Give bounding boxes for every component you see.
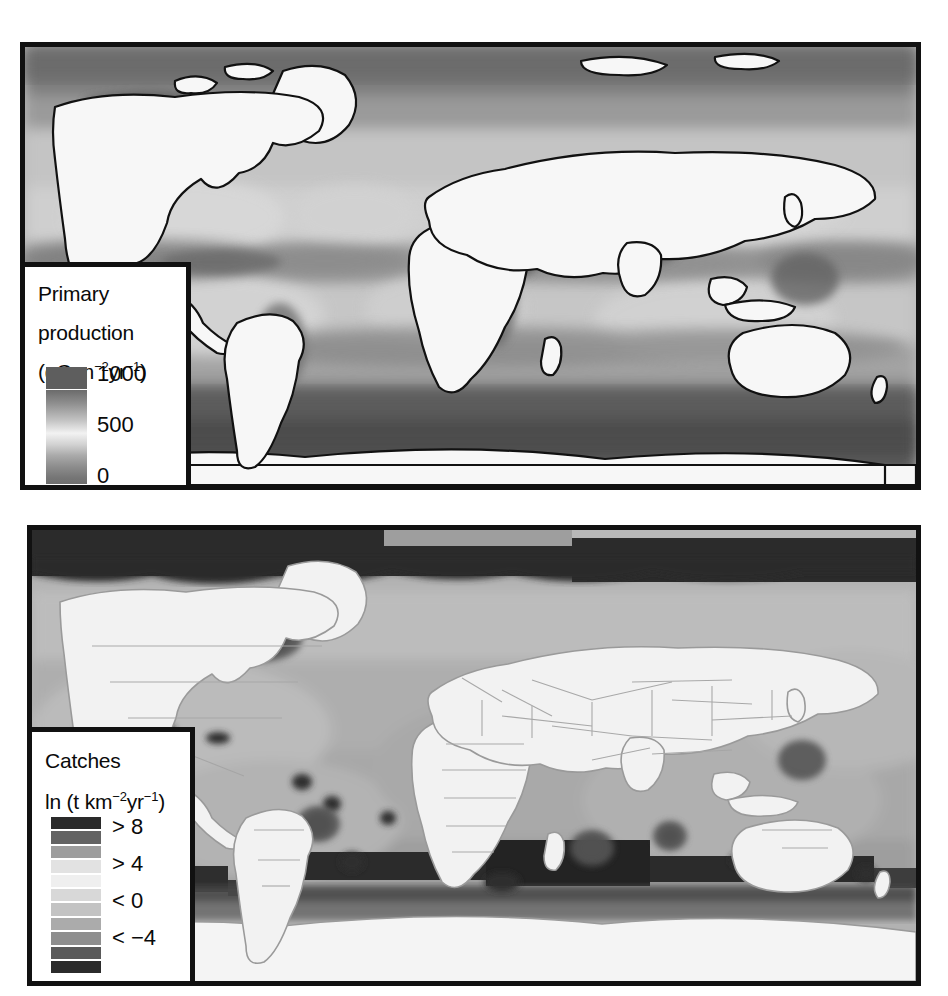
catches-label-lt0: < 0	[112, 890, 143, 912]
panel-catches: Catches ln (t km−2yr−1) > 8 > 4 < 0 < −4	[27, 525, 921, 986]
primary-production-colorbar	[46, 367, 87, 484]
catches-swatch-0	[50, 816, 102, 830]
colorbar-tick-0: 0	[97, 465, 109, 487]
catches-swatch-9	[50, 946, 102, 960]
colorbar-overflow-block	[46, 367, 87, 389]
catches-swatch-10	[50, 960, 102, 974]
legend-catches-units-sup1: −2	[112, 789, 126, 804]
catches-swatch-ramp	[50, 816, 102, 974]
catches-swatch-8	[50, 931, 102, 945]
catches-swatch-6	[50, 902, 102, 916]
colorbar-tick-labels: 1000 500 0	[97, 363, 187, 489]
colorbar-tick-500: 500	[97, 414, 134, 436]
legend-pp-title-line1: Primary	[38, 281, 186, 306]
figure-root: Primary production (gC m−2yr−1) 1000 500…	[0, 0, 948, 996]
catches-label-ltm4: < −4	[112, 927, 156, 949]
legend-catches-units-sup2: −1	[144, 789, 158, 804]
colorbar-gradient	[46, 390, 87, 484]
catches-label-gt8: > 8	[112, 816, 143, 838]
legend-pp-title-line2: production	[38, 320, 186, 345]
legend-catches-title: Catches	[45, 748, 190, 773]
catches-swatch-1	[50, 830, 102, 844]
catches-swatch-5	[50, 888, 102, 902]
colorbar-tick-1000: 1000	[97, 363, 146, 385]
catches-swatch-2	[50, 845, 102, 859]
catches-swatch-4	[50, 874, 102, 888]
catches-swatch-3	[50, 859, 102, 873]
catches-ramp-labels: > 8 > 4 < 0 < −4	[112, 810, 192, 975]
legend-catches: Catches ln (t km−2yr−1) > 8 > 4 < 0 < −4	[32, 727, 195, 986]
panel-primary-production: Primary production (gC m−2yr−1) 1000 500…	[20, 42, 921, 490]
catches-label-gt4: > 4	[112, 853, 143, 875]
catches-swatch-7	[50, 917, 102, 931]
legend-catches-units-prefix: ln (t km	[45, 790, 112, 813]
legend-primary-production: Primary production (gC m−2yr−1) 1000 500…	[25, 262, 191, 490]
